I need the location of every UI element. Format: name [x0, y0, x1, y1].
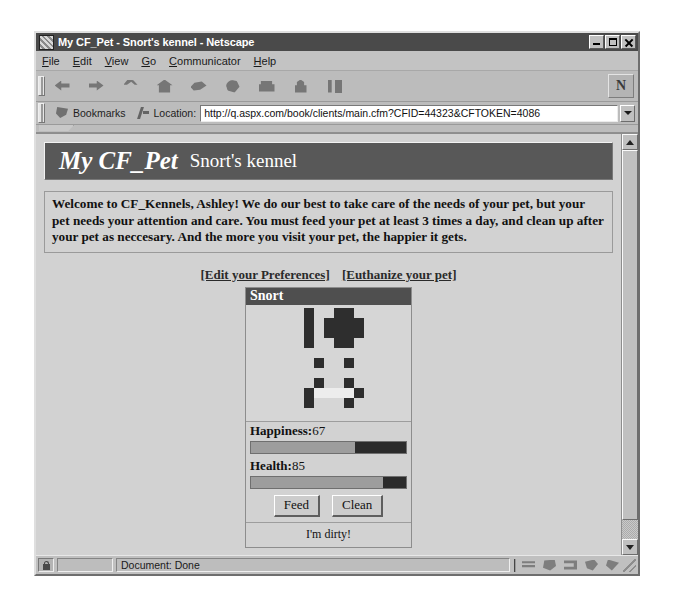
pet-pixel	[294, 408, 304, 418]
location-toolbar-grip[interactable]	[38, 103, 45, 123]
forward-icon	[86, 77, 108, 96]
pet-pixel	[344, 378, 354, 388]
pet-pixel	[354, 368, 364, 378]
pet-panel-wrapper: Snort Happiness:67 Health:85	[44, 287, 613, 548]
scroll-up-button[interactable]	[622, 134, 638, 150]
pet-pixel	[274, 348, 284, 358]
pet-pixel	[334, 378, 344, 388]
pet-pixel	[334, 398, 344, 408]
menu-item-help[interactable]: Help	[254, 55, 277, 67]
home-button[interactable]	[150, 74, 179, 99]
pet-pixel	[334, 348, 344, 358]
netscape-logo-icon[interactable]: N	[608, 74, 634, 98]
address-book-icon[interactable]	[584, 559, 599, 572]
menu-item-file[interactable]: File	[42, 55, 60, 67]
pet-pixel	[274, 378, 284, 388]
pet-pixel	[364, 368, 374, 378]
pet-pixel	[294, 328, 304, 338]
url-input[interactable]: http://q.aspx.com/book/clients/main.cfm?…	[200, 105, 618, 122]
vertical-scrollbar[interactable]	[621, 134, 638, 555]
feed-button[interactable]: Feed	[274, 495, 320, 517]
pet-pixel	[374, 318, 384, 328]
happiness-label: Happiness:67	[246, 422, 411, 440]
security-icon	[290, 77, 312, 96]
pet-pixel	[284, 308, 294, 318]
menu-item-go[interactable]: Go	[141, 55, 156, 67]
pet-pixel	[344, 388, 354, 398]
pet-pixel	[374, 358, 384, 368]
scrollbar-thumb[interactable]	[622, 150, 638, 520]
pet-pixel	[354, 358, 364, 368]
scroll-down-button[interactable]	[622, 539, 638, 555]
pet-pixel	[374, 308, 384, 318]
print-button[interactable]	[252, 74, 281, 99]
scrollbar-track[interactable]	[622, 150, 638, 539]
pet-pixel	[314, 318, 324, 328]
newsgroup-icon[interactable]	[563, 559, 578, 572]
menu-label-file: ile	[49, 55, 60, 67]
minimize-button[interactable]	[589, 35, 604, 49]
euthanize-pet-link[interactable]: [Euthanize your pet]	[342, 267, 457, 282]
pet-pixel	[304, 408, 314, 418]
menu-item-edit[interactable]: Edit	[73, 55, 92, 67]
pet-pixel	[294, 338, 304, 348]
pet-pixel	[304, 318, 314, 328]
page-proxy-icon[interactable]	[136, 106, 151, 120]
reload-button[interactable]	[116, 74, 145, 99]
location-toolbar: Bookmarks Location: http://q.aspx.com/bo…	[36, 102, 638, 125]
title-bar[interactable]: My CF_Pet - Snort's kennel - Netscape	[36, 33, 638, 51]
pet-pixel	[374, 348, 384, 358]
url-history-dropdown[interactable]	[620, 105, 635, 122]
guide-button[interactable]	[218, 74, 247, 99]
back-button[interactable]	[48, 74, 77, 99]
menu-item-communicator[interactable]: Communicator	[169, 55, 241, 67]
pet-pixel	[304, 378, 314, 388]
pet-pixel	[364, 348, 374, 358]
content-area: My CF_Pet Snort's kennel Welcome to CF_K…	[36, 133, 638, 555]
pet-pixel	[354, 408, 364, 418]
maximize-button[interactable]	[605, 35, 620, 49]
resize-grip[interactable]	[623, 559, 636, 572]
bookmarks-button[interactable]: Bookmarks	[50, 106, 126, 120]
stop-button[interactable]	[320, 74, 349, 99]
netscape-document-icon	[39, 35, 54, 50]
pet-pixel	[314, 328, 324, 338]
edit-preferences-link[interactable]: [Edit your Preferences]	[200, 267, 329, 282]
pet-pixel	[284, 378, 294, 388]
search-icon	[188, 77, 210, 96]
health-bar-fill	[251, 477, 383, 488]
forward-button[interactable]	[82, 74, 111, 99]
close-button[interactable]	[621, 35, 636, 49]
menu-label-edit: dit	[80, 55, 92, 67]
happiness-label-text: Happiness:	[250, 423, 312, 438]
stop-icon	[324, 77, 346, 96]
pet-pixel-grid	[274, 308, 384, 418]
pet-pixel	[334, 318, 344, 328]
composer-icon[interactable]	[605, 559, 620, 572]
menu-bar: File Edit View Go Communicator Help	[36, 51, 638, 71]
happiness-bar-fill	[251, 442, 355, 453]
search-button[interactable]	[184, 74, 213, 99]
personal-toolbar-tab[interactable]	[36, 125, 638, 133]
menu-item-view[interactable]: View	[105, 55, 129, 67]
clean-button[interactable]: Clean	[332, 495, 383, 517]
page-banner: My CF_Pet Snort's kennel	[44, 142, 613, 180]
mailbox-icon[interactable]	[542, 559, 557, 572]
pet-pixel	[294, 368, 304, 378]
pet-pixel	[324, 338, 334, 348]
pet-pixel	[344, 408, 354, 418]
page-title: My CF_Pet	[59, 147, 178, 175]
home-icon	[154, 77, 176, 96]
pet-pixel	[274, 368, 284, 378]
padlock-icon[interactable]	[38, 558, 54, 572]
toolbar-grip[interactable]	[38, 76, 45, 96]
security-button[interactable]	[286, 74, 315, 99]
pet-pixel	[374, 328, 384, 338]
pet-pixel	[274, 308, 284, 318]
link-separator	[334, 267, 337, 282]
pet-pixel	[274, 318, 284, 328]
pet-pixel	[344, 358, 354, 368]
pet-pixel	[334, 408, 344, 418]
pet-name-bar: Snort	[246, 288, 411, 305]
navigator-icon[interactable]	[521, 559, 536, 572]
